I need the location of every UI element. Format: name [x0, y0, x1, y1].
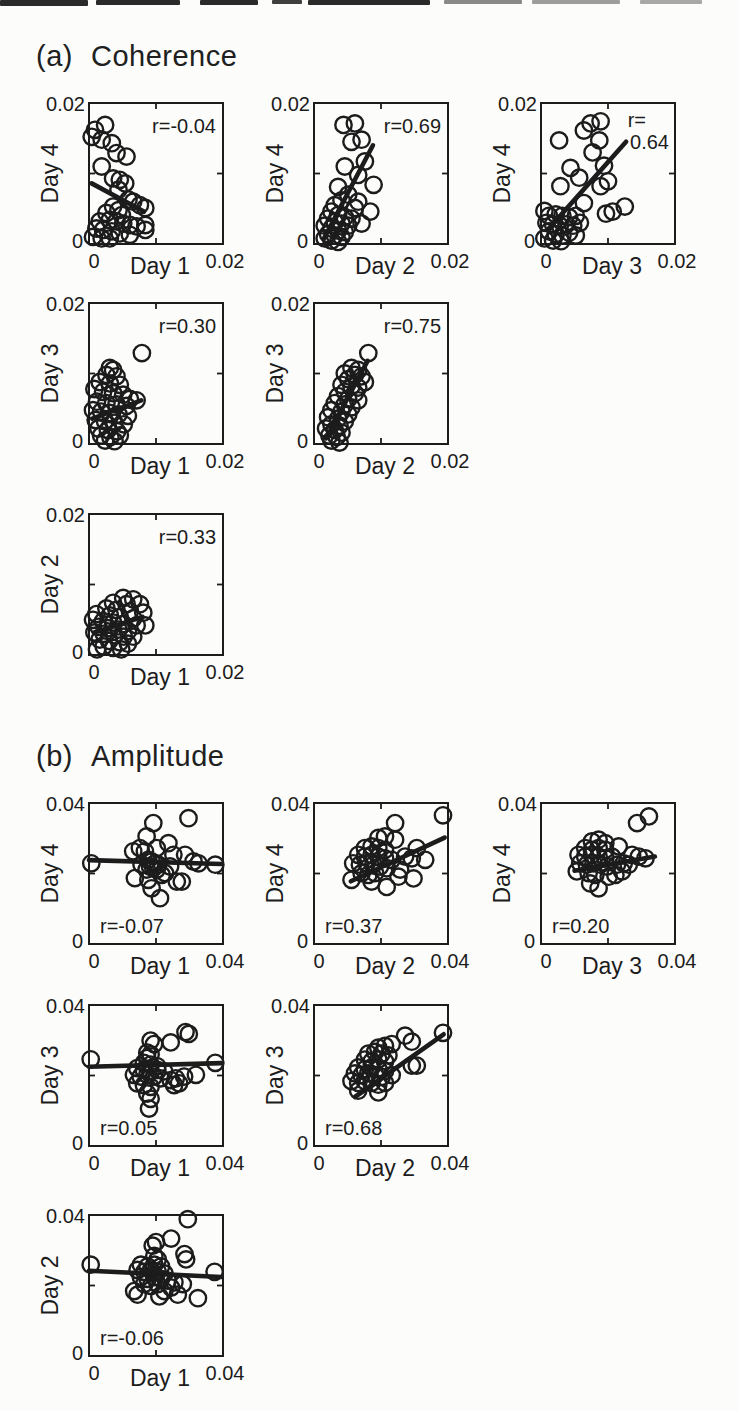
correlation-label: r=0.69 [384, 115, 441, 137]
x-axis-max-tick-label: 0.02 [658, 250, 697, 272]
scatter-plot-day4-vs-day1-a: 0.020Day 400.02Day 1r=-0.04 [36, 90, 256, 290]
y-axis-label: Day 3 [37, 1045, 63, 1105]
scatter-plot-day3-vs-day1-b: 0.040Day 300.04Day 1r=0.05 [36, 992, 256, 1192]
y-axis-max-tick-label: 0.02 [498, 93, 537, 115]
artifact-segment [308, 0, 430, 5]
y-axis-max-tick-label: 0.02 [46, 93, 85, 115]
correlation-label: r=0.68 [325, 1117, 382, 1139]
scatter-plot-day2-vs-day1-b: 0.040Day 200.04Day 1r=-0.06 [36, 1202, 256, 1402]
x-axis-max-tick-label: 0.04 [206, 950, 245, 972]
x-axis-label: Day 1 [130, 253, 190, 279]
scatter-plot-day4-vs-day2-b: 0.040Day 400.04Day 2r=0.37 [261, 790, 481, 990]
svg-text:r=: r= [628, 109, 646, 131]
correlation-label: r=-0.07 [100, 915, 164, 937]
data-point [571, 170, 587, 186]
data-point [190, 1290, 206, 1306]
svg-text:0.64: 0.64 [630, 131, 669, 153]
y-axis-max-tick-label: 0.04 [271, 793, 310, 815]
scanned-figure-page: (a)Coherence (b)Amplitude 0.020Day 400.0… [0, 0, 738, 1411]
svg-text:r=0.05: r=0.05 [100, 1117, 157, 1139]
data-point [365, 177, 381, 193]
y-axis-min-tick-label: 0 [524, 230, 535, 252]
data-point [104, 135, 120, 151]
y-axis-min-tick-label: 0 [72, 1342, 83, 1364]
data-points-group [343, 1025, 451, 1101]
data-points-group [84, 117, 154, 247]
y-axis-min-tick-label: 0 [72, 641, 83, 663]
x-axis-min-tick-label: 0 [88, 950, 99, 972]
x-axis-label: Day 3 [582, 953, 642, 979]
data-point [134, 345, 150, 361]
svg-text:r=0.20: r=0.20 [552, 915, 609, 937]
data-point [83, 855, 99, 871]
data-points-group [569, 808, 658, 896]
y-axis-label: Day 3 [262, 343, 288, 403]
y-axis-label: Day 4 [489, 843, 515, 903]
y-axis-label: Day 4 [489, 143, 515, 203]
data-point [188, 1067, 204, 1083]
correlation-label: r=0.20 [552, 915, 609, 937]
y-axis-max-tick-label: 0.02 [271, 293, 310, 315]
data-point [551, 132, 567, 148]
y-axis-min-tick-label: 0 [72, 1132, 83, 1154]
data-points-group [85, 345, 150, 450]
y-axis-min-tick-label: 0 [72, 430, 83, 452]
correlation-label: r=0.64 [628, 109, 669, 153]
scatter-plot-day3-vs-day1-a: 0.020Day 300.02Day 1r=0.30 [36, 290, 256, 490]
panel-b-title: (b)Amplitude [36, 740, 224, 773]
scatter-plot-day3-vs-day2-b: 0.040Day 300.04Day 2r=0.68 [261, 992, 481, 1192]
x-axis-max-tick-label: 0.04 [431, 950, 470, 972]
data-points-group [343, 807, 451, 895]
x-axis-max-tick-label: 0.04 [206, 1362, 245, 1384]
data-point [180, 1211, 196, 1227]
x-axis-min-tick-label: 0 [540, 250, 551, 272]
y-axis-label: Day 4 [37, 843, 63, 903]
x-axis-label: Day 2 [355, 253, 415, 279]
artifact-segment [444, 0, 522, 4]
y-axis-label: Day 3 [37, 343, 63, 403]
data-point [118, 148, 134, 164]
x-axis-max-tick-label: 0.02 [431, 250, 470, 272]
svg-text:r=0.37: r=0.37 [325, 915, 382, 937]
panel-a-title: (a)Coherence [36, 40, 237, 73]
panel-b-label: (b) [36, 740, 73, 772]
x-axis-label: Day 1 [130, 1365, 190, 1391]
y-axis-min-tick-label: 0 [72, 230, 83, 252]
correlation-label: r=0.30 [159, 315, 216, 337]
x-axis-min-tick-label: 0 [540, 950, 551, 972]
y-axis-label: Day 4 [262, 143, 288, 203]
x-axis-min-tick-label: 0 [88, 661, 99, 683]
y-axis-label: Day 4 [262, 843, 288, 903]
correlation-label: r=0.75 [384, 315, 441, 337]
y-axis-min-tick-label: 0 [297, 1132, 308, 1154]
x-axis-label: Day 2 [355, 1155, 415, 1181]
y-axis-max-tick-label: 0.04 [46, 793, 85, 815]
x-axis-label: Day 2 [355, 453, 415, 479]
correlation-label: r=0.33 [159, 526, 216, 548]
artifact-segment [96, 0, 180, 5]
x-axis-min-tick-label: 0 [88, 1362, 99, 1384]
correlation-label: r=0.05 [100, 1117, 157, 1139]
y-axis-min-tick-label: 0 [297, 230, 308, 252]
artifact-segment [272, 0, 302, 4]
y-axis-max-tick-label: 0.02 [46, 504, 85, 526]
data-point [405, 870, 421, 886]
artifact-segment [532, 0, 620, 4]
data-point [163, 1230, 179, 1246]
scatter-plot-day4-vs-day3-a: 0.020Day 400.02Day 3r=0.64 [488, 90, 708, 290]
y-axis-label: Day 4 [37, 143, 63, 203]
data-point [592, 113, 608, 129]
x-axis-max-tick-label: 0.04 [431, 1152, 470, 1174]
data-points-group [317, 115, 382, 250]
y-axis-min-tick-label: 0 [524, 930, 535, 952]
y-axis-min-tick-label: 0 [297, 430, 308, 452]
data-point [141, 1100, 157, 1116]
data-point [163, 1034, 179, 1050]
data-point [562, 160, 578, 176]
x-axis-min-tick-label: 0 [313, 1152, 324, 1174]
panel-b-name: Amplitude [91, 740, 224, 772]
y-axis-max-tick-label: 0.04 [46, 995, 85, 1017]
x-axis-min-tick-label: 0 [313, 250, 324, 272]
y-axis-max-tick-label: 0.02 [271, 93, 310, 115]
data-points-group [318, 345, 377, 451]
